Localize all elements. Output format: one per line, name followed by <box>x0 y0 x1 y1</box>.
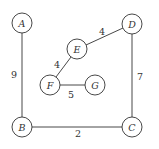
weight-e-d: 4 <box>99 26 105 37</box>
svg-text:A: A <box>18 18 26 29</box>
node-d: D <box>122 14 142 34</box>
weight-b-c: 2 <box>75 128 81 139</box>
node-b: B <box>12 117 32 137</box>
node-f: F <box>40 75 60 95</box>
graph-diagram: 9 2 7 4 4 5 A D E F G B C <box>0 0 159 149</box>
node-c: C <box>122 117 142 137</box>
svg-text:E: E <box>73 44 81 55</box>
weight-d-c: 7 <box>137 71 143 82</box>
node-g: G <box>85 75 105 95</box>
svg-text:D: D <box>127 19 136 30</box>
node-e: E <box>67 39 87 59</box>
svg-text:G: G <box>91 80 99 91</box>
svg-text:F: F <box>46 80 54 91</box>
svg-text:B: B <box>18 122 26 133</box>
svg-text:C: C <box>128 122 136 133</box>
node-a: A <box>12 13 32 33</box>
weight-f-e: 4 <box>54 59 60 70</box>
weight-f-g: 5 <box>68 89 74 100</box>
weight-a-b: 9 <box>11 69 17 80</box>
